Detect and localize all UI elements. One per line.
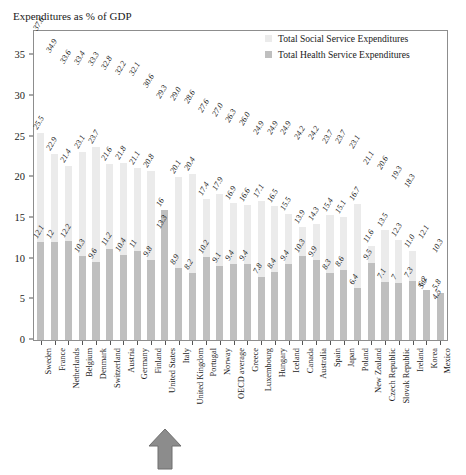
x-tick-mark <box>261 341 262 345</box>
bar-health <box>65 241 72 340</box>
bar-group: 28.620.48.2 <box>189 31 196 340</box>
bar-group: 26.316.99.4 <box>230 31 237 340</box>
bar-group: 24.917.17.8 <box>258 31 265 340</box>
bar-group: 20.613.57.1 <box>381 31 388 340</box>
up-arrow-icon <box>148 428 182 470</box>
category-label: Sweden <box>44 348 53 375</box>
category-label: Hungary <box>278 348 287 377</box>
total-value-label: 33.3 <box>86 51 101 68</box>
social-value-label: 12.3 <box>389 221 404 238</box>
y-tick-mark <box>29 95 33 96</box>
total-value-label: 30.6 <box>141 73 156 90</box>
bar-health <box>51 242 58 340</box>
bar-health <box>244 264 251 340</box>
legend-label: Total Social Service Expenditures <box>278 33 408 44</box>
total-value-label: 23.7 <box>334 129 349 146</box>
bar-health <box>147 260 154 340</box>
total-value-label: 26.0 <box>237 110 252 127</box>
bar-group: 24.214.39.9 <box>313 31 320 340</box>
bar-group: 33.323.79.6 <box>92 31 99 340</box>
bar-group: 34.922.912 <box>51 31 58 340</box>
x-tick-mark <box>247 341 248 345</box>
social-value-label: 11.6 <box>361 228 375 244</box>
category-label: New Zealand <box>374 348 383 393</box>
bar-health <box>313 260 320 341</box>
x-tick-mark <box>330 341 331 345</box>
total-value-label: 28.6 <box>182 89 197 106</box>
total-value-label: 24.9 <box>265 119 280 136</box>
category-label: Portugal <box>209 348 218 376</box>
bar-group: 33.621.412.2 <box>65 31 72 340</box>
y-tick-mark <box>29 176 33 177</box>
bar-group: 21.111.69.5 <box>368 31 375 340</box>
social-value-label: 17.1 <box>251 182 266 199</box>
total-value-label: 20.6 <box>375 154 390 171</box>
social-value-label: 15.5 <box>279 195 294 212</box>
total-value-label: 18.3 <box>402 173 417 190</box>
social-value-label: 16.6 <box>237 186 252 203</box>
category-label: Australia <box>319 348 328 379</box>
x-tick-mark <box>179 341 180 345</box>
category-label: Belgium <box>85 348 94 377</box>
total-value-label: 33.6 <box>58 48 73 65</box>
social-value-label: 17.9 <box>210 176 225 193</box>
category-label: OECD average <box>237 348 246 399</box>
y-tick-label: 5 <box>20 293 25 304</box>
category-label: Iceland <box>292 348 301 373</box>
category-label: Luxembourg <box>264 348 273 391</box>
bar-group: 12.15.96.2 <box>423 31 430 340</box>
x-tick-mark <box>110 341 111 345</box>
total-value-label: 32.8 <box>100 55 115 72</box>
bar-health <box>381 282 388 340</box>
social-value-label: 21.8 <box>113 144 128 161</box>
social-value-label: 21.4 <box>58 147 73 164</box>
x-tick-mark <box>358 341 359 345</box>
total-value-label: 24.2 <box>292 125 307 142</box>
total-value-label: 32.1 <box>127 60 142 77</box>
total-value-label: 10.3 <box>430 238 445 255</box>
y-tick-mark <box>29 217 33 218</box>
bar-health <box>395 283 402 340</box>
x-tick-mark <box>385 341 386 345</box>
bar-group: 29.020.18.9 <box>175 31 182 340</box>
social-value-label: 16.7 <box>347 186 362 203</box>
category-label: Netherlands <box>72 348 81 388</box>
bar-group: 32.121.111 <box>134 31 141 340</box>
bar-group: 33.423.110.3 <box>79 31 86 340</box>
category-label: Switzerland <box>113 348 122 388</box>
category-label: Norway <box>223 348 232 375</box>
bar-group: 29.313.316 <box>161 31 168 340</box>
bars-area: 37.625.512.134.922.91233.621.412.233.423… <box>34 31 447 340</box>
total-value-label: 24.9 <box>251 119 266 136</box>
bar-group: 32.821.611.2 <box>106 31 113 340</box>
category-label: Italy <box>182 348 191 363</box>
bar-health <box>326 273 333 340</box>
y-tick-label: 25 <box>15 130 26 141</box>
social-value-label: 20.4 <box>182 156 197 173</box>
total-value-label: 32.2 <box>113 60 128 77</box>
legend: Total Social Service ExpendituresTotal H… <box>265 33 410 65</box>
category-label: Korea <box>430 348 439 368</box>
category-label: United States <box>168 348 177 393</box>
legend-swatch-social <box>265 35 272 42</box>
x-tick-mark <box>234 341 235 345</box>
category-label: United Kingdom <box>196 348 205 405</box>
category-label: Ireland <box>416 348 425 372</box>
bar-health <box>299 256 306 340</box>
bar-group: 23.715.48.3 <box>326 31 333 340</box>
category-label: Slovak Republic <box>402 348 411 404</box>
chart-title: Expenditures as % of GDP <box>13 10 132 22</box>
social-value-label: 22.9 <box>45 135 60 152</box>
x-tick-mark <box>96 341 97 345</box>
x-tick-mark <box>413 341 414 345</box>
bar-health <box>230 264 237 340</box>
bar-health <box>271 272 278 340</box>
x-tick-mark <box>192 341 193 345</box>
total-value-label: 23.1 <box>347 134 362 151</box>
total-value-label: 21.1 <box>361 150 376 167</box>
bar-group: 32.221.810.4 <box>120 31 127 340</box>
bar-health <box>368 263 375 340</box>
total-value-label: 24.9 <box>279 119 294 136</box>
x-tick-mark <box>151 341 152 345</box>
total-value-label: 33.4 <box>72 50 87 67</box>
